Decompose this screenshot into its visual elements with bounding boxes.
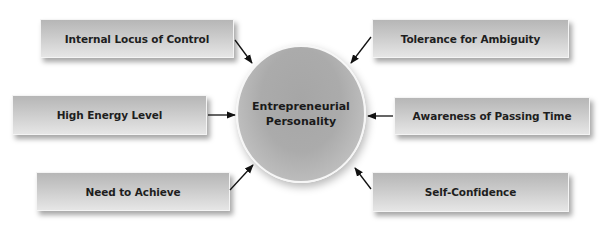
arrow-icon <box>355 168 371 189</box>
factor-label: High Energy Level <box>57 109 163 121</box>
factor-box-awareness-of-passing-time: Awareness of Passing Time <box>394 97 590 135</box>
factor-box-tolerance-for-ambiguity: Tolerance for Ambiguity <box>372 19 569 58</box>
factor-box-internal-locus-of-control: Internal Locus of Control <box>40 19 234 58</box>
factor-label: Internal Locus of Control <box>65 33 209 45</box>
factor-box-need-to-achieve: Need to Achieve <box>36 172 230 211</box>
arrow-icon <box>235 40 252 63</box>
arrow-icon <box>351 37 371 63</box>
arrow-icon <box>230 165 253 190</box>
factor-label: Self-Confidence <box>425 186 517 198</box>
diagram-canvas: Internal Locus of Control High Energy Le… <box>0 0 608 230</box>
center-hub-circle: Entrepreneurial Personality <box>236 45 366 183</box>
factor-label: Awareness of Passing Time <box>413 110 572 122</box>
factor-box-high-energy-level: High Energy Level <box>12 95 207 135</box>
factor-label: Tolerance for Ambiguity <box>401 33 540 45</box>
center-label-line1: Entrepreneurial <box>252 99 350 114</box>
factor-box-self-confidence: Self-Confidence <box>372 172 569 212</box>
factor-label: Need to Achieve <box>85 186 180 198</box>
center-label-line2: Personality <box>266 114 336 129</box>
